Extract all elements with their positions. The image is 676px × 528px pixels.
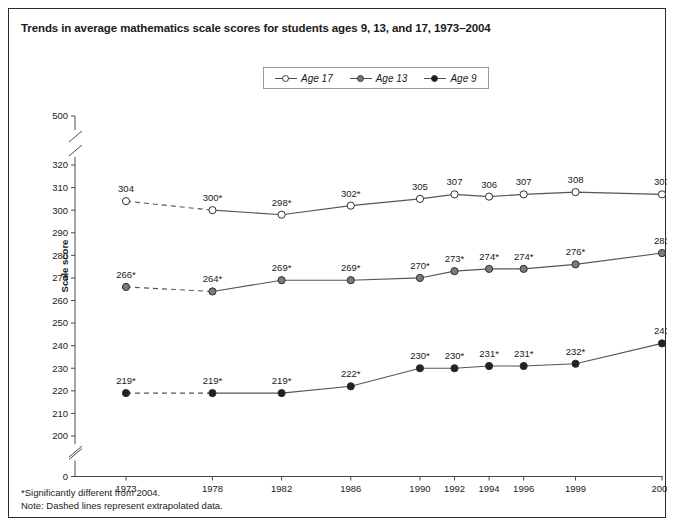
chart-figure: Trends in average mathematics scale scor…	[8, 8, 666, 518]
data-point-label: 264*	[203, 273, 223, 284]
data-point	[572, 261, 579, 268]
x-tick-label: 1982	[271, 483, 292, 494]
data-point-label: 231*	[479, 348, 499, 359]
data-point-label: 266*	[116, 269, 136, 280]
y-tick-label: 240	[52, 340, 68, 351]
data-point-label: 305	[412, 181, 428, 192]
x-tick-label: 1992	[444, 483, 465, 494]
data-point-label: 276*	[566, 246, 586, 257]
data-point-label: 307	[516, 176, 532, 187]
y-tick-label: 0	[63, 471, 68, 482]
series-line-dashed	[126, 201, 212, 210]
data-point	[347, 277, 354, 284]
data-point-label: 219*	[272, 375, 292, 386]
data-point	[572, 189, 579, 196]
footnotes: *Significantly different from 2004. Note…	[21, 486, 223, 512]
data-point	[451, 268, 458, 275]
data-point	[416, 195, 423, 202]
data-point-label: 270*	[410, 260, 430, 271]
y-tick-label: 210	[52, 408, 68, 419]
y-tick-label: 280	[52, 250, 68, 261]
data-point-label: 274*	[479, 251, 499, 262]
y-tick-label: 320	[52, 159, 68, 170]
y-tick-label: 250	[52, 317, 68, 328]
y-axis: 5003203103002902802702602502402302202102…	[52, 110, 82, 482]
x-tick-label: 1990	[409, 483, 430, 494]
series-line-dashed	[126, 287, 212, 292]
y-tick-label: 200	[52, 430, 68, 441]
data-point-label: 269*	[341, 262, 361, 273]
data-point	[209, 389, 216, 396]
data-point	[122, 283, 129, 290]
x-tick-label: 1999	[565, 483, 586, 494]
data-point-label: 307	[447, 176, 463, 187]
data-point	[209, 207, 216, 214]
data-point	[520, 362, 527, 369]
data-point	[122, 198, 129, 205]
data-point-label: 273*	[445, 253, 465, 264]
y-tick-label: 290	[52, 227, 68, 238]
data-point	[572, 360, 579, 367]
data-point-label: 307	[654, 176, 667, 187]
data-point-label: 300*	[203, 192, 223, 203]
x-tick-label: 2004	[651, 483, 667, 494]
data-point	[658, 249, 665, 256]
data-point-label: 302*	[341, 188, 361, 199]
data-point	[520, 265, 527, 272]
data-point	[278, 277, 285, 284]
footnote-note: Note: Dashed lines represent extrapolate…	[21, 499, 223, 512]
data-point	[209, 288, 216, 295]
data-point-label: 274*	[514, 251, 534, 262]
data-point-label: 222*	[341, 368, 361, 379]
data-point	[451, 191, 458, 198]
plot-svg: 5003203103002902802702602502402302202102…	[9, 9, 667, 519]
data-point	[278, 389, 285, 396]
data-point	[485, 265, 492, 272]
data-point-label: 230*	[410, 350, 430, 361]
y-tick-label: 270	[52, 272, 68, 283]
data-series-group: 304300*298*302*305307306307308307266*264…	[116, 174, 667, 397]
data-point	[347, 383, 354, 390]
y-tick-label: 230	[52, 363, 68, 374]
plot-area: 5003203103002902802702602502402302202102…	[9, 9, 667, 519]
data-point-label: 306	[481, 179, 497, 190]
y-tick-label: 500	[52, 110, 68, 121]
data-point-label: 269*	[272, 262, 292, 273]
data-point-label: 219*	[203, 375, 223, 386]
data-point-label: 241	[654, 325, 667, 336]
data-point-label: 308	[568, 174, 584, 185]
data-point-label: 298*	[272, 197, 292, 208]
data-point-label: 232*	[566, 346, 586, 357]
data-point	[122, 389, 129, 396]
data-point	[658, 340, 665, 347]
data-point	[658, 191, 665, 198]
x-tick-label: 1996	[513, 483, 534, 494]
data-point	[520, 191, 527, 198]
data-point	[278, 211, 285, 218]
data-point-label: 304	[118, 183, 134, 194]
data-point	[416, 365, 423, 372]
data-point-label: 281	[654, 235, 667, 246]
y-tick-label: 310	[52, 182, 68, 193]
data-point	[416, 274, 423, 281]
footnote-significance: *Significantly different from 2004.	[21, 486, 223, 499]
data-point	[485, 362, 492, 369]
data-point	[451, 365, 458, 372]
x-tick-label: 1986	[340, 483, 361, 494]
y-tick-label: 220	[52, 385, 68, 396]
data-point-label: 219*	[116, 375, 136, 386]
data-point	[347, 202, 354, 209]
data-point-label: 231*	[514, 348, 534, 359]
data-point-label: 230*	[445, 350, 465, 361]
y-tick-label: 300	[52, 205, 68, 216]
y-tick-label: 260	[52, 295, 68, 306]
data-point	[485, 193, 492, 200]
x-tick-label: 1994	[479, 483, 500, 494]
